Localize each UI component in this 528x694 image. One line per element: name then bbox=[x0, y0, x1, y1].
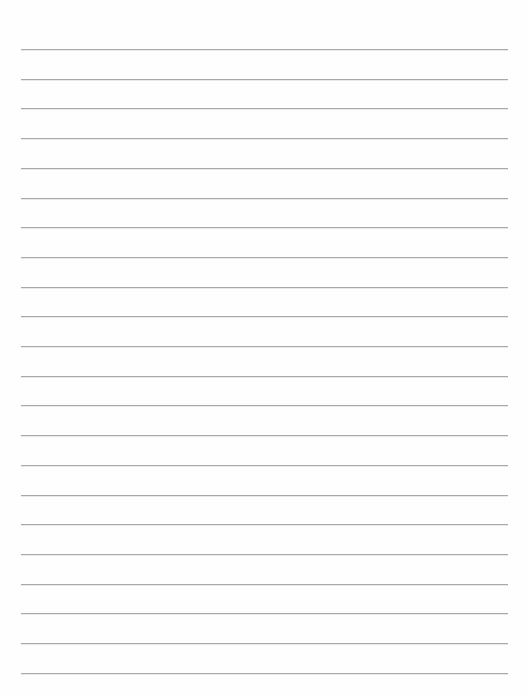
ruled-line bbox=[21, 168, 508, 169]
ruled-line bbox=[21, 227, 508, 228]
ruled-line bbox=[21, 673, 508, 674]
ruled-line bbox=[21, 613, 508, 614]
ruled-line bbox=[21, 49, 508, 50]
ruled-line bbox=[21, 554, 508, 555]
ruled-line bbox=[21, 138, 508, 139]
ruled-line bbox=[21, 287, 508, 288]
ruled-line bbox=[21, 405, 508, 406]
ruled-line bbox=[21, 198, 508, 199]
ruled-line bbox=[21, 643, 508, 644]
ruled-line bbox=[21, 376, 508, 377]
ruled-line bbox=[21, 584, 508, 585]
ruled-line bbox=[21, 346, 508, 347]
ruled-line bbox=[21, 495, 508, 496]
ruled-line bbox=[21, 108, 508, 109]
ruled-line bbox=[21, 316, 508, 317]
ruled-line bbox=[21, 435, 508, 436]
ruled-line bbox=[21, 257, 508, 258]
ruled-line bbox=[21, 79, 508, 80]
ruled-line bbox=[21, 524, 508, 525]
lined-paper-page bbox=[0, 0, 528, 694]
ruled-line bbox=[21, 465, 508, 466]
